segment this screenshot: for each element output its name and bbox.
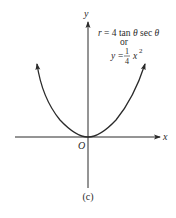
exponent: 2 bbox=[139, 47, 143, 55]
equation-connector: or bbox=[120, 37, 129, 47]
x-axis-label: x bbox=[162, 131, 168, 142]
y-axis-label: y bbox=[83, 8, 89, 19]
fraction-denominator: 4 bbox=[125, 57, 129, 66]
cartesian-equation: y = 1 4 x 2 bbox=[110, 47, 143, 66]
origin-label: O bbox=[78, 140, 85, 151]
svg-text:=: = bbox=[118, 51, 123, 61]
parabola-left-branch bbox=[37, 64, 88, 137]
svg-text:x: x bbox=[132, 51, 138, 61]
fraction-numerator: 1 bbox=[125, 47, 129, 56]
svg-text:y: y bbox=[110, 51, 116, 61]
figure-caption: (c) bbox=[82, 191, 93, 203]
parabola-right-branch bbox=[88, 64, 145, 137]
parabola-diagram: y x O r = 4 tan θ sec θ or y = 1 4 x 2 (… bbox=[0, 0, 176, 218]
polar-equation: r = 4 tan θ sec θ bbox=[98, 28, 159, 38]
